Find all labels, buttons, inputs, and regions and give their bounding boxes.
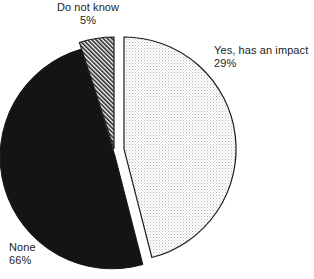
- pie-label-do-not-know: Do not know 5%: [48, 1, 128, 27]
- pie-label-yes-name: Yes, has an impact: [214, 44, 308, 57]
- pie-label-do-not-know-name: Do not know: [48, 1, 128, 14]
- pie-label-none: None 66%: [9, 241, 36, 267]
- pie-chart: Do not know 5% Yes, has an impact 29% No…: [0, 0, 314, 279]
- pie-label-none-value: 66%: [9, 254, 36, 267]
- pie-slice-yes: [124, 37, 236, 258]
- pie-label-none-name: None: [9, 241, 36, 254]
- pie-chart-graphic: [0, 0, 314, 279]
- pie-label-yes: Yes, has an impact 29%: [214, 44, 308, 70]
- pie-slice-none: [0, 49, 143, 269]
- pie-label-yes-value: 29%: [214, 57, 308, 70]
- pie-label-do-not-know-value: 5%: [48, 14, 128, 27]
